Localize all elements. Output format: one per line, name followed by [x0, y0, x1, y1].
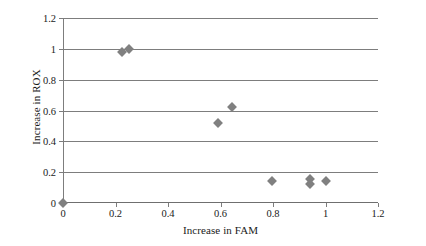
x-tick-label: 0	[60, 208, 65, 219]
x-tick-mark	[378, 203, 379, 207]
x-tick-mark	[221, 203, 222, 207]
x-tick-mark	[168, 203, 169, 207]
scatter-plot-figure: Increase in ROX 00.20.40.60.811.2 00.20.…	[0, 0, 426, 246]
x-tick-label: 0.6	[214, 208, 227, 219]
y-tick-mark	[59, 111, 63, 112]
data-point-marker	[267, 176, 277, 186]
y-tick-mark	[59, 18, 63, 19]
gridline-y-1	[63, 49, 378, 50]
gridline-y-1.2	[63, 18, 378, 19]
y-tick-label: 0.2	[43, 167, 56, 178]
y-tick-mark	[59, 141, 63, 142]
gridline-y-0.4	[63, 141, 378, 142]
x-tick-label: 0.4	[161, 208, 174, 219]
x-axis-title: Increase in FAM	[63, 224, 378, 236]
data-point-marker	[213, 118, 223, 128]
gridline-y-0.2	[63, 172, 378, 173]
gridline-y-0.8	[63, 80, 378, 81]
y-tick-label: 0.8	[43, 74, 56, 85]
plot-area: 00.20.40.60.811.2 00.20.40.60.811.2	[63, 18, 378, 203]
gridline-y-0.6	[63, 111, 378, 112]
x-tick-label: 0.2	[109, 208, 122, 219]
y-tick-label: 0.4	[43, 136, 56, 147]
x-tick-label: 1.2	[371, 208, 384, 219]
x-tick-mark	[326, 203, 327, 207]
y-axis-title: Increase in ROX	[30, 17, 42, 197]
data-point-marker	[58, 198, 68, 208]
y-tick-mark	[59, 80, 63, 81]
x-tick-mark	[273, 203, 274, 207]
y-tick-mark	[59, 49, 63, 50]
y-tick-mark	[59, 172, 63, 173]
x-tick-label: 0.8	[266, 208, 279, 219]
data-point-marker	[321, 176, 331, 186]
y-tick-label: 1.2	[43, 13, 56, 24]
y-tick-label: 0.6	[43, 105, 56, 116]
y-tick-label: 0	[51, 198, 56, 209]
x-tick-mark	[116, 203, 117, 207]
y-tick-label: 1	[51, 43, 56, 54]
x-tick-label: 1	[323, 208, 328, 219]
